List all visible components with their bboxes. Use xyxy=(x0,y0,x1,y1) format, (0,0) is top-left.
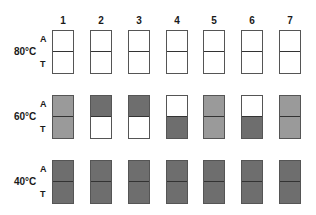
strand-a-segment xyxy=(280,31,300,52)
strand-a-segment xyxy=(280,96,300,117)
strand-t-segment xyxy=(204,52,224,73)
strand-t-segment xyxy=(242,182,262,203)
strand-a-segment xyxy=(91,96,111,117)
duplex-cell xyxy=(279,160,301,204)
strand-t-segment xyxy=(129,52,149,73)
strand-t-segment xyxy=(280,117,300,138)
strand-a-segment xyxy=(53,96,73,117)
strand-a-segment xyxy=(91,31,111,52)
column-label: 3 xyxy=(128,15,150,26)
strand-a-segment xyxy=(167,31,187,52)
duplex-cell xyxy=(241,30,263,74)
strand-t-segment xyxy=(91,182,111,203)
strand-a-segment xyxy=(167,161,187,182)
column-label: 7 xyxy=(279,15,301,26)
strand-t-segment xyxy=(242,117,262,138)
strand-t-segment xyxy=(91,52,111,73)
strand-a-segment xyxy=(242,31,262,52)
duplex-cell xyxy=(203,95,225,139)
strand-label-a: A xyxy=(40,34,47,44)
column-label: 1 xyxy=(52,15,74,26)
duplex-cell xyxy=(203,30,225,74)
duplex-cell xyxy=(166,95,188,139)
strand-a-segment xyxy=(53,31,73,52)
strand-a-segment xyxy=(204,31,224,52)
column-label: 2 xyxy=(90,15,112,26)
strand-t-segment xyxy=(167,182,187,203)
strand-label-a: A xyxy=(40,99,47,109)
strand-t-segment xyxy=(167,117,187,138)
strand-t-segment xyxy=(204,182,224,203)
strand-t-segment xyxy=(242,52,262,73)
strand-a-segment xyxy=(280,161,300,182)
strand-t-segment xyxy=(204,117,224,138)
strand-label-t: T xyxy=(40,59,46,69)
duplex-cell xyxy=(241,95,263,139)
strand-t-segment xyxy=(129,182,149,203)
duplex-cell xyxy=(90,30,112,74)
strand-a-segment xyxy=(204,96,224,117)
duplex-cell xyxy=(128,160,150,204)
strand-t-segment xyxy=(129,117,149,138)
strand-a-segment xyxy=(129,161,149,182)
strand-t-segment xyxy=(280,52,300,73)
strand-label-a: A xyxy=(40,164,47,174)
temperature-label: 60°C xyxy=(14,111,44,122)
strand-t-segment xyxy=(280,182,300,203)
strand-t-segment xyxy=(53,117,73,138)
strand-label-t: T xyxy=(40,189,46,199)
strand-a-segment xyxy=(204,161,224,182)
duplex-cell xyxy=(90,95,112,139)
strand-t-segment xyxy=(91,117,111,138)
duplex-cell xyxy=(241,160,263,204)
strand-a-segment xyxy=(167,96,187,117)
duplex-cell xyxy=(166,160,188,204)
duplex-cell xyxy=(279,95,301,139)
strand-t-segment xyxy=(53,52,73,73)
strand-a-segment xyxy=(242,96,262,117)
duplex-cell xyxy=(128,30,150,74)
duplex-cell xyxy=(90,160,112,204)
strand-label-t: T xyxy=(40,124,46,134)
temperature-label: 40°C xyxy=(14,176,44,187)
duplex-cell xyxy=(52,160,74,204)
strand-a-segment xyxy=(129,96,149,117)
column-label: 4 xyxy=(166,15,188,26)
column-label: 5 xyxy=(203,15,225,26)
duplex-cell xyxy=(52,95,74,139)
strand-a-segment xyxy=(129,31,149,52)
strand-a-segment xyxy=(242,161,262,182)
temperature-label: 80°C xyxy=(14,46,44,57)
strand-a-segment xyxy=(53,161,73,182)
strand-t-segment xyxy=(53,182,73,203)
duplex-cell xyxy=(52,30,74,74)
duplex-cell xyxy=(128,95,150,139)
strand-t-segment xyxy=(167,52,187,73)
duplex-cell xyxy=(203,160,225,204)
column-label: 6 xyxy=(241,15,263,26)
duplex-cell xyxy=(279,30,301,74)
strand-a-segment xyxy=(91,161,111,182)
duplex-cell xyxy=(166,30,188,74)
